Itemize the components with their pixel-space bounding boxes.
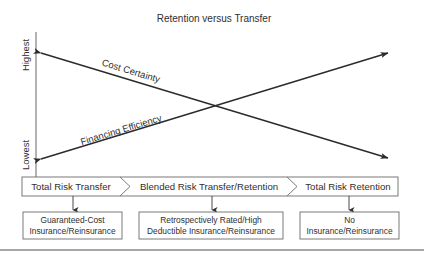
outcome-line1: Retrospectively Rated/High: [160, 215, 262, 225]
retention-vs-transfer-diagram: Retention versus Transfer Highest Lowest…: [0, 0, 424, 258]
stage-total-risk-transfer: Total Risk Transfer: [31, 181, 111, 192]
outcome-box-retrospectively-rated: Retrospectively Rated/High Deductible In…: [139, 212, 283, 239]
y-axis-lowest-label: Lowest: [20, 140, 31, 170]
stage-bar: Total Risk Transfer Blended Risk Transfe…: [22, 177, 398, 196]
outcome-box-no-insurance: No Insurance/Reinsurance: [300, 212, 399, 239]
outcome-box-guaranteed-cost: Guaranteed-Cost Insurance/Reinsurance: [23, 212, 122, 239]
financing-efficiency-label: Financing Efficiency: [79, 112, 163, 147]
outcome-line1: Guaranteed-Cost: [40, 215, 105, 225]
outcome-line2: Insurance/Reinsurance: [29, 226, 115, 236]
stage-blended-risk: Blended Risk Transfer/Retention: [140, 181, 278, 192]
y-axis-highest-label: Highest: [20, 39, 31, 72]
outcome-line2: Deductible Insurance/Reinsurance: [147, 226, 275, 236]
diagram-title: Retention versus Transfer: [157, 13, 272, 24]
outcome-line1: No: [344, 215, 355, 225]
stage-total-risk-retention: Total Risk Retention: [305, 181, 390, 192]
outcome-line2: Insurance/Reinsurance: [306, 226, 392, 236]
